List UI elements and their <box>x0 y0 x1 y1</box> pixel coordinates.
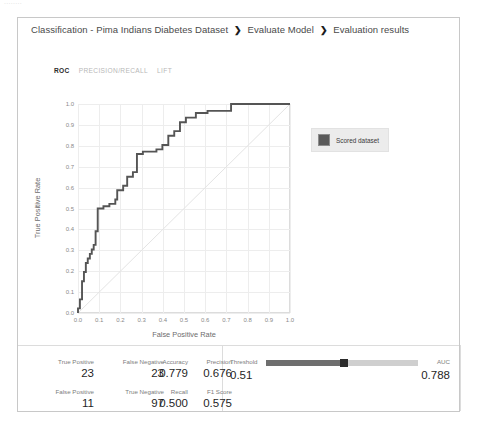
tab-roc[interactable]: ROC <box>54 67 70 74</box>
y-tick-label: 0.2 <box>56 268 74 274</box>
breadcrumb-item-experiment[interactable]: Classification - Pima Indians Diabetes D… <box>31 24 228 35</box>
y-tick-label: 0.5 <box>56 206 74 212</box>
chart-legend: Scored dataset <box>311 128 389 152</box>
threshold-label: Threshold <box>230 358 258 365</box>
metric-false-positive: False Positive 11 <box>32 387 94 411</box>
y-tick-label: 0.9 <box>56 122 74 128</box>
y-tick-label: 0.4 <box>56 226 74 232</box>
random-baseline-line <box>78 104 290 313</box>
x-tick-label: 0.0 <box>74 317 82 323</box>
roc-chart: 0.00.10.20.30.40.50.60.70.80.91.0 0.00.1… <box>18 78 461 363</box>
threshold-block: Threshold AUC 0.51 0.788 <box>230 357 450 369</box>
legend-swatch-icon <box>318 134 330 146</box>
y-tick-label: 0.3 <box>56 247 74 253</box>
breadcrumb-item-module[interactable]: Evaluate Model <box>248 24 314 35</box>
x-tick-label: 0.3 <box>137 317 145 323</box>
roc-curve-svg <box>78 104 290 313</box>
legend-label: Scored dataset <box>336 137 379 144</box>
x-tick-label: 0.4 <box>159 317 167 323</box>
auc-value: 0.788 <box>421 369 450 381</box>
metric-true-positive: True Positive 23 <box>32 357 94 381</box>
y-axis-title: True Positive Rate <box>33 178 42 239</box>
truncated-top-text: ........ <box>4 0 22 5</box>
x-tick-label: 0.5 <box>180 317 188 323</box>
y-tick-label: 0.8 <box>56 143 74 149</box>
metric-precision: Precision 0.676 <box>170 357 232 381</box>
threshold-row: Threshold AUC <box>230 357 450 369</box>
x-tick-label: 0.9 <box>265 317 273 323</box>
y-tick-label: 0.0 <box>56 310 74 316</box>
plot-area: 0.00.10.20.30.40.50.60.70.80.91.0 0.00.1… <box>78 104 290 313</box>
slider-thumb[interactable] <box>340 359 348 367</box>
y-tick-label: 0.1 <box>56 289 74 295</box>
evaluation-results-panel: Classification - Pima Indians Diabetes D… <box>17 17 460 412</box>
metrics-footer: True Positive 23 False Negative 23 False… <box>18 346 461 412</box>
x-tick-label: 0.8 <box>243 317 251 323</box>
metric-f1-score: F1 Score 0.575 <box>170 387 232 411</box>
x-axis-title: False Positive Rate <box>78 330 290 339</box>
tab-lift[interactable]: LIFT <box>157 67 172 74</box>
y-tick-label: 0.6 <box>56 185 74 191</box>
breadcrumb-item-current: Evaluation results <box>333 24 409 35</box>
slider-track-filled <box>266 360 344 366</box>
grid-line-vertical <box>290 104 291 313</box>
threshold-value: 0.51 <box>230 369 252 381</box>
grid-line-horizontal <box>78 313 290 314</box>
slider-track-remaining <box>344 360 418 366</box>
y-tick-label: 1.0 <box>56 101 74 107</box>
breadcrumb: Classification - Pima Indians Diabetes D… <box>31 24 409 35</box>
x-tick-label: 1.0 <box>286 317 294 323</box>
x-tick-label: 0.6 <box>201 317 209 323</box>
auc-label: AUC <box>437 358 450 365</box>
threshold-slider[interactable] <box>266 359 418 367</box>
x-tick-label: 0.1 <box>95 317 103 323</box>
x-tick-label: 0.2 <box>116 317 124 323</box>
visualization-tabs: ROC PRECISION/RECALL LIFT <box>54 67 172 74</box>
tab-precision-recall[interactable]: PRECISION/RECALL <box>79 67 148 74</box>
breadcrumb-separator-icon: ❯ <box>320 25 328 35</box>
breadcrumb-separator-icon: ❯ <box>234 25 242 35</box>
y-tick-label: 0.7 <box>56 164 74 170</box>
x-tick-label: 0.7 <box>222 317 230 323</box>
